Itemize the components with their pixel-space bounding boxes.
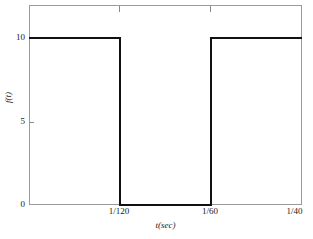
x-tick-mark-top-1-60 <box>210 6 211 12</box>
x-tick-label-1-60: 1/60 <box>186 207 234 216</box>
x-axis-label: t(sec) <box>29 221 302 230</box>
plot-frame <box>29 5 302 205</box>
y-axis-label: f(t) <box>4 91 13 105</box>
y-tick-label-5: 5 <box>6 117 25 126</box>
x-axis-label-text: t(sec) <box>156 220 176 230</box>
y-tick-mark-5 <box>29 122 34 123</box>
x-tick-mark-top-1-120 <box>119 6 120 12</box>
figure-canvas: 10 5 0 1/120 1/60 1/40 f(t) t(sec) <box>0 0 313 239</box>
y-axis-label-text: f(t) <box>3 92 13 103</box>
y-tick-label-0: 0 <box>6 200 25 209</box>
y-tick-label-10: 10 <box>6 33 25 42</box>
x-tick-label-1-120: 1/120 <box>94 207 144 216</box>
x-tick-label-1-40: 1/40 <box>278 207 311 216</box>
y-tick-mark-10 <box>29 38 34 39</box>
